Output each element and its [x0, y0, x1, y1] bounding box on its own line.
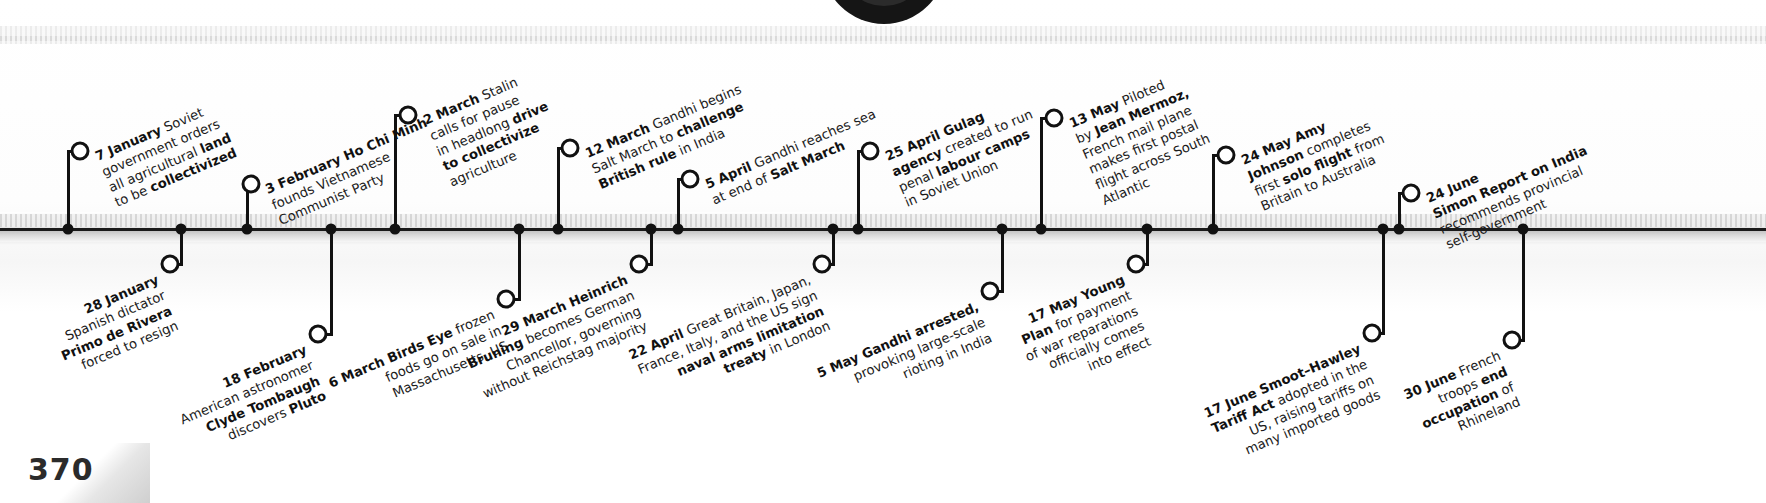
- stem-25-april: [857, 151, 860, 229]
- stem-7-january: [67, 151, 70, 229]
- event-ring-30-june[interactable]: [1503, 331, 1522, 350]
- event-ring-6-march[interactable]: [497, 290, 516, 309]
- event-label-17-may: 17 May YoungPlan for paymentof war repar…: [1010, 272, 1154, 396]
- event-label-5-may: 5 May Gandhi arrested,provoking large-sc…: [815, 299, 995, 413]
- event-label-28-january: 28 JanuarySpanish dictatorPrimo de River…: [46, 272, 181, 380]
- event-label-18-february: 18 FebruaryAmerican astronomerClyde Tomb…: [171, 342, 329, 460]
- stem-24-may: [1212, 155, 1215, 229]
- stem-22-april: [832, 229, 835, 264]
- page-edge-texture-top-secondary: [0, 36, 1766, 41]
- event-ring-3-february[interactable]: [242, 175, 261, 194]
- event-label-30-june: 30 June Frenchtroops endoccupation ofRhi…: [1402, 348, 1524, 450]
- timeline-axis-shadow: [0, 231, 1766, 245]
- event-ring-24-june[interactable]: [1402, 184, 1421, 203]
- event-label-17-june: 17 June Smoot–HawleyTariff Act adopted i…: [1202, 341, 1383, 469]
- stem-12-march: [557, 148, 560, 229]
- stem-17-may: [1146, 229, 1149, 264]
- event-ring-13-may[interactable]: [1045, 109, 1064, 128]
- scanner-thumb-shadow: [822, 0, 946, 24]
- event-ring-29-march[interactable]: [630, 255, 649, 274]
- event-label-13-may: 13 May Pilotedby Jean Mermoz,French mail…: [1067, 69, 1219, 210]
- event-label-24-may: 24 May AmyJohnson completesfirst solo fl…: [1239, 100, 1393, 216]
- event-label-2-march: 2 March Stalincalls for pausein headlong…: [421, 67, 564, 191]
- event-ring-17-june[interactable]: [1363, 324, 1382, 343]
- timeline-page: 7 January Sovietgovernment ordersall agr…: [0, 0, 1766, 503]
- stem-17-june: [1382, 229, 1385, 333]
- stem-5-april: [677, 179, 680, 229]
- stem-28-january: [180, 229, 183, 264]
- stem-24-june: [1398, 193, 1401, 229]
- event-ring-5-april[interactable]: [681, 170, 700, 189]
- event-label-25-april: 25 April Gulagagency created to runpenal…: [883, 91, 1048, 212]
- stem-18-february: [330, 229, 333, 334]
- event-ring-5-may[interactable]: [981, 282, 1000, 301]
- stem-30-june: [1522, 229, 1525, 340]
- event-ring-12-march[interactable]: [561, 139, 580, 158]
- page-edge-texture-top: [0, 26, 1766, 44]
- event-label-7-january: 7 January Sovietgovernment ordersall agr…: [93, 99, 240, 212]
- event-ring-28-january[interactable]: [161, 255, 180, 274]
- event-ring-18-february[interactable]: [309, 325, 328, 344]
- stem-5-may: [1001, 229, 1004, 291]
- event-label-29-march: 29 March HeinrichBruning becomes GermanC…: [459, 272, 650, 404]
- event-ring-17-may[interactable]: [1127, 255, 1146, 274]
- event-ring-24-may[interactable]: [1217, 146, 1236, 165]
- event-ring-7-january[interactable]: [71, 142, 90, 161]
- stem-29-march: [650, 229, 653, 264]
- event-label-22-april: 22 April Great Britain, Japan,France, It…: [627, 272, 834, 410]
- stem-6-march: [518, 229, 521, 299]
- event-ring-22-april[interactable]: [813, 255, 832, 274]
- page-number: 370: [28, 452, 94, 487]
